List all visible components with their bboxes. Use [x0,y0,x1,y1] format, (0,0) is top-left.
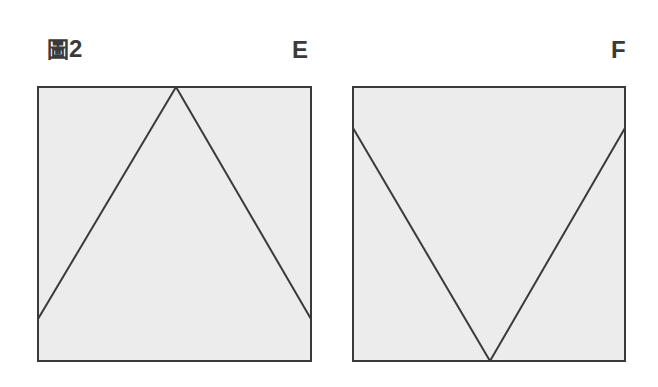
diagram-canvas [0,0,658,387]
panel-e-square [38,87,311,361]
panel-f [353,87,625,361]
panel-f-square [353,87,625,361]
panel-e [38,87,311,361]
